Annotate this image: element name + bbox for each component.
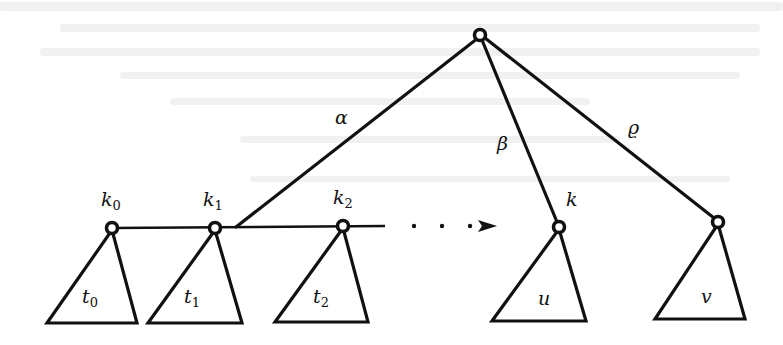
ellipsis-dot-1	[412, 224, 416, 228]
subtree-v	[655, 224, 745, 319]
label-t1: t1	[184, 285, 200, 310]
label-beta: β	[496, 132, 508, 154]
ellipsis-dot-3	[468, 224, 472, 228]
edge-beta	[482, 40, 557, 222]
tree-diagram: α β ϱ k0 k1 k2 k t0 t1 t2 u v	[0, 0, 783, 345]
label-u: u	[538, 287, 550, 309]
node-k2	[338, 221, 349, 232]
label-v: v	[701, 285, 712, 307]
node-right	[713, 217, 724, 228]
label-alpha: α	[335, 106, 348, 128]
label-t2: t2	[313, 285, 329, 310]
ellipsis-dot-2	[440, 224, 444, 228]
label-rho: ϱ	[628, 116, 640, 138]
label-k: k	[566, 188, 578, 210]
root-node	[475, 30, 486, 41]
label-t0: t0	[82, 285, 98, 310]
edge-alpha	[236, 38, 478, 227]
label-k2: k2	[333, 186, 353, 211]
label-k1: k1	[203, 188, 223, 213]
node-k1	[210, 223, 221, 234]
node-k	[554, 222, 565, 233]
arrowhead-icon	[478, 220, 497, 232]
node-k0	[107, 223, 118, 234]
label-k0: k0	[101, 188, 121, 213]
